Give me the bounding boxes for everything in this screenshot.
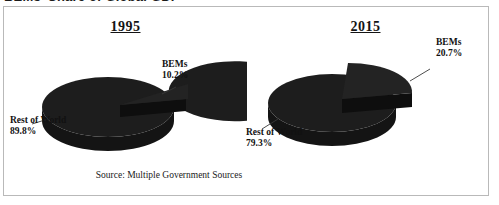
callout-bems-pct-2015: 20.7% <box>436 48 462 59</box>
chart-frame: 1995 BEMs 10.2% Rest <box>3 6 489 196</box>
leader-line-bems-2015 <box>410 69 430 81</box>
pie-panel-1995: 1995 BEMs 10.2% Rest <box>4 7 247 197</box>
slice-bems-top-2015 <box>342 63 412 99</box>
callout-bems-pct-1995: 10.2% <box>162 70 188 81</box>
callout-bems-name-2015: BEMs <box>436 37 461 47</box>
pie-svg-1995 <box>4 41 247 161</box>
callout-rest-of-world-pct-1995: 89.8% <box>10 126 66 137</box>
page-title: BEMs' Share of Global GDP <box>4 0 180 4</box>
callout-bems-2015: BEMs 20.7% <box>436 37 462 59</box>
callout-bems-name-1995: BEMs <box>162 59 187 69</box>
clipped-chart-title: BEMs' Share of Global GDP <box>0 0 499 5</box>
pie-chart-1995 <box>4 41 247 161</box>
callout-rest-of-world-1995: Rest of World 89.8% <box>10 115 66 137</box>
callout-rest-of-world-pct-2015: 79.3% <box>246 138 302 149</box>
pie-panel-2015: 2015 BEMs 20.7% Rest of World <box>244 7 487 197</box>
callout-rest-of-world-name-2015: Rest of World <box>246 127 302 137</box>
callout-rest-of-world-2015: Rest of World 79.3% <box>246 127 302 149</box>
year-heading-2015: 2015 <box>244 19 487 35</box>
callout-rest-of-world-name-1995: Rest of World <box>10 115 66 125</box>
year-heading-1995: 1995 <box>4 19 247 35</box>
callout-bems-1995: BEMs 10.2% <box>162 59 188 81</box>
